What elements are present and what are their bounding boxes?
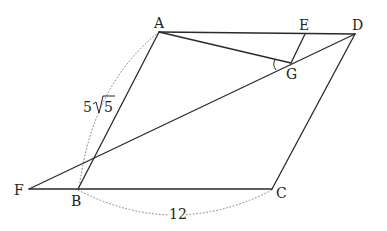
segment-cd <box>272 34 355 189</box>
angle-mark-g <box>274 59 276 70</box>
length-label-ab: 5 5 <box>83 96 115 115</box>
label-point-e: E <box>299 17 309 33</box>
label-point-d: D <box>352 17 363 33</box>
label-point-g: G <box>286 66 297 82</box>
label-point-b: B <box>71 193 81 209</box>
label-point-f: F <box>14 182 24 198</box>
svg-text:5: 5 <box>83 99 92 115</box>
segment-fd <box>29 34 355 189</box>
segment-ag <box>159 32 291 63</box>
length-label-bc: 12 <box>169 206 187 222</box>
segment-da <box>159 32 355 34</box>
label-point-a: A <box>153 15 165 31</box>
label-point-c: C <box>276 185 287 201</box>
geometry-figure: A E D G F B C 5 5 12 <box>0 0 387 231</box>
svg-text:5: 5 <box>104 99 113 115</box>
